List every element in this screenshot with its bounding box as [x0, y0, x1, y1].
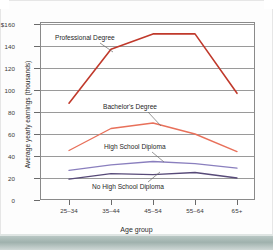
series-line-high-school-diploma: [69, 162, 237, 171]
chart-page: Average yearly earnings (thousands) $160…: [0, 0, 273, 250]
series-lines-layer: [0, 0, 273, 250]
page-bottom-band: [0, 236, 273, 250]
series-label-bachelors-degree: Bachelor's Degree: [103, 103, 157, 110]
series-label-no-high-school-diploma: No High School Diploma: [92, 183, 164, 190]
series-label-professional-degree: Professional Degree: [55, 34, 115, 41]
series-label-high-school-diploma: High School Diploma: [104, 143, 166, 150]
leader-line-no-high-school-diploma: [148, 172, 160, 182]
leader-line-professional-degree: [100, 43, 113, 52]
series-line-professional-degree: [69, 34, 237, 103]
leader-line-high-school-diploma: [152, 152, 164, 162]
